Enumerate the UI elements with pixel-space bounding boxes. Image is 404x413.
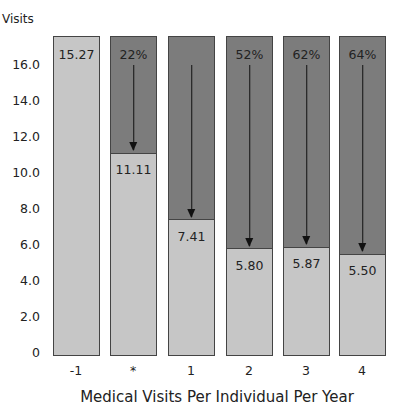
value-label: 5.80 [227, 258, 272, 273]
x-tick-label: * [110, 363, 156, 378]
value-label: 7.41 [169, 229, 214, 244]
x-tick-label: -1 [53, 363, 99, 378]
down-arrow-icon [306, 65, 307, 244]
down-arrow-icon [362, 65, 363, 251]
reduction-percent-label: 64% [340, 47, 385, 62]
y-tick-label: 8.0 [0, 201, 40, 216]
y-tick-label: 6.0 [0, 237, 40, 252]
bar-1: 15.27 [53, 36, 100, 356]
x-tick-label: 3 [283, 363, 329, 378]
y-tick-label: 16.0 [0, 57, 40, 72]
y-axis-label: Visits [2, 12, 34, 26]
bar-5: 5.8762% [283, 36, 330, 356]
bar-3: 7.41 [168, 36, 215, 356]
bar-2: 11.1122% [110, 36, 157, 356]
down-arrow-icon [249, 65, 250, 246]
down-arrow-icon [191, 65, 192, 217]
y-tick-label: 14.0 [0, 93, 40, 108]
value-label: 5.87 [284, 256, 329, 271]
value-segment [54, 37, 99, 355]
reduction-percent-label: 22% [111, 47, 156, 62]
bar-6: 5.5064% [339, 36, 386, 356]
value-segment [111, 153, 156, 355]
x-tick-label: 1 [168, 363, 214, 378]
x-tick-label: 2 [226, 363, 272, 378]
x-axis-label: Medical Visits Per Individual Per Year [0, 388, 404, 406]
y-tick-label: 0 [0, 345, 40, 360]
reduction-percent-label: 52% [227, 47, 272, 62]
reduction-percent-label: 62% [284, 47, 329, 62]
y-tick-label: 12.0 [0, 129, 40, 144]
bar-4: 5.8052% [226, 36, 273, 356]
y-tick-label: 4.0 [0, 273, 40, 288]
y-tick-label: 10.0 [0, 165, 40, 180]
value-label: 5.50 [340, 263, 385, 278]
stacked-bar-chart: Visits 02.04.06.08.010.012.014.016.0 15.… [0, 0, 404, 413]
value-label: 11.11 [111, 162, 156, 177]
value-label: 15.27 [54, 47, 99, 62]
x-tick-label: 4 [339, 363, 385, 378]
down-arrow-icon [133, 65, 134, 150]
y-tick-label: 2.0 [0, 309, 40, 324]
